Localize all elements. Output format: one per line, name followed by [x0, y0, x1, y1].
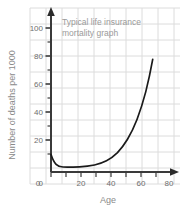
x-tick-label-40: 40	[107, 179, 116, 188]
x-tick-label-0: 0	[36, 179, 41, 188]
chart-title-line-2: mortality graph	[62, 28, 118, 38]
mortality-chart: 100 80 60 40 20 0 0 20 40 60 80 Age Numb…	[0, 0, 188, 216]
y-tick-label-80: 80	[34, 52, 43, 61]
y-tick-label-100: 100	[30, 24, 44, 33]
y-tick-label-40: 40	[34, 108, 43, 117]
x-tick-label-20: 20	[77, 179, 86, 188]
x-tick-label-60: 60	[137, 179, 146, 188]
chart-canvas: 100 80 60 40 20 0 0 20 40 60 80 Age Numb…	[0, 0, 188, 216]
y-axis-title: Number of deaths per 1000	[7, 50, 17, 160]
chart-title-line-1: Typical life insurance	[62, 17, 141, 27]
y-tick-label-60: 60	[34, 80, 43, 89]
y-tick-label-20: 20	[34, 136, 43, 145]
x-axis-title: Age	[100, 195, 116, 205]
x-tick-label-80: 80	[165, 179, 174, 188]
